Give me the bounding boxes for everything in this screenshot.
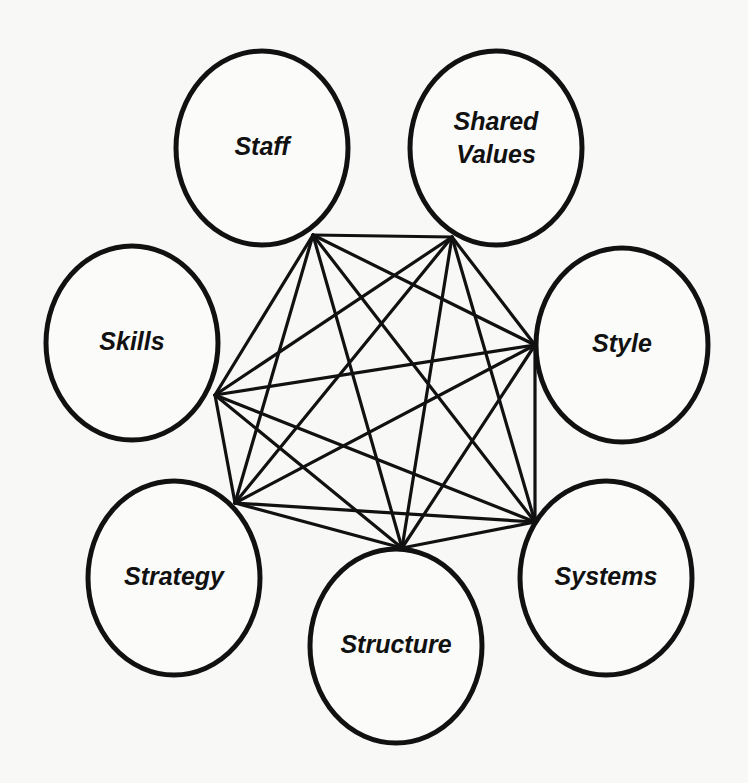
- edge-shared-values-style: [452, 237, 535, 345]
- node-strategy: Strategy: [88, 481, 260, 675]
- node-label: Values: [456, 140, 536, 168]
- node-label: Skills: [99, 327, 164, 355]
- node-staff: Staff: [176, 51, 348, 245]
- node-structure: Structure: [310, 549, 482, 743]
- node-label: Structure: [340, 630, 451, 658]
- edge-staff-skills: [215, 235, 313, 395]
- edge-systems-structure: [402, 522, 535, 548]
- seven-s-diagram: StaffSharedValuesSkillsStyleStrategySyst…: [0, 0, 748, 783]
- edge-shared-values-systems: [452, 237, 535, 522]
- node-systems: Systems: [520, 481, 692, 675]
- edge-skills-strategy: [215, 395, 235, 503]
- node-skills: Skills: [46, 246, 218, 440]
- edge-staff-strategy: [235, 235, 313, 503]
- node-label: Systems: [555, 562, 658, 590]
- node-label: Staff: [234, 132, 292, 160]
- node-label: Strategy: [124, 562, 225, 590]
- node-shared-values: SharedValues: [410, 51, 582, 245]
- connection-lines: [215, 235, 535, 548]
- node-label: Style: [592, 329, 652, 357]
- node-style: Style: [536, 248, 708, 442]
- edge-staff-shared-values: [313, 235, 452, 237]
- edge-staff-style: [313, 235, 535, 345]
- node-label: Shared: [454, 107, 539, 135]
- element-nodes: StaffSharedValuesSkillsStyleStrategySyst…: [46, 51, 708, 743]
